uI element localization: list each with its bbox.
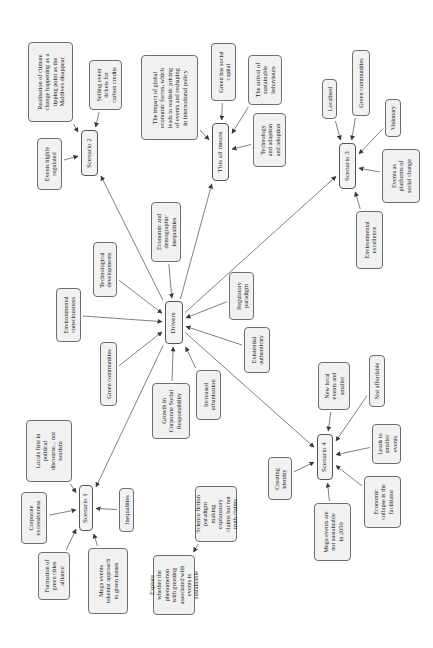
node-sustainable-behaviours: The arrival of sustainable behaviours [248, 55, 282, 105]
node-economic-demographic-inequalities: Economic and demographic inequalities [151, 202, 181, 262]
node-label: Scenario 4 [321, 442, 328, 472]
node-technological-developments: Technological developments [93, 242, 117, 297]
edge-highly_regulated-to-scenario2 [64, 156, 78, 160]
node-label: Growth in Corporate Social Responsibilit… [160, 390, 182, 433]
node-label: The impact of global economic forces, wh… [151, 67, 188, 127]
node-scenario-4: Scenario 4 [317, 434, 333, 480]
edge-new_local_events-to-scenario4 [328, 412, 330, 431]
edge-visionary-to-scenario3 [359, 129, 383, 154]
edge-sustainable_behaviours-to-this_all_means [232, 107, 248, 133]
edge-environmental_consciousness-to-drivers [83, 316, 162, 322]
node-green-communities-drivers: Green communities [100, 342, 117, 406]
node-visionary: Visionary [385, 99, 401, 137]
node-green-social-capital: Green has social capital [211, 43, 236, 101]
edge-creating_identity-to-scenario4 [294, 462, 314, 472]
node-scenario-1: Scenario 1 [79, 485, 93, 531]
node-label: Technological developments [98, 252, 113, 288]
edge-economic_demographic-to-drivers [169, 264, 172, 298]
node-mega-events-not-sustainable: Mega events are not sustainable in 2050 [314, 503, 351, 561]
node-label: Economic collapse is the facilitator [371, 484, 393, 520]
edge-green_social_capital-to-this_all_means [222, 103, 223, 120]
node-locals-first: Locals first in political discourse... n… [26, 420, 72, 482]
node-technology-adoption: Technology and adaption and adoption [253, 113, 286, 167]
node-leads-to-smaller-events: Leads to smaller events [372, 424, 401, 464]
node-label: Existential authenticity [250, 335, 265, 365]
node-label: Green communities [105, 349, 112, 399]
node-label: Scenario 2 [86, 138, 93, 168]
node-selling-tickets-carbon-credits: Selling event tickets for carbon credits [89, 60, 122, 110]
node-label: Visionary [389, 106, 396, 130]
node-realisation-climate-change: Realisation of climate change happening … [28, 42, 73, 122]
node-label: Green has social capital [216, 51, 231, 93]
node-label: Technology and adaption and adoption [258, 124, 280, 157]
edge-environmental_excellence-to-scenario3 [355, 192, 360, 209]
edge-regulatory_paradigm-to-drivers [186, 302, 227, 318]
node-label: Not affordable [373, 363, 380, 400]
node-label: Explore whether the phenomenon with gree… [148, 566, 200, 605]
node-label: Scenario 3 [344, 151, 351, 181]
node-mega-events-tokenist: Mega events tokenist approach to green i… [88, 548, 128, 614]
edge-global_forces-to-this_all_means [200, 130, 209, 140]
node-label: Selling event tickets for carbon credits [94, 67, 116, 103]
concept-map: Drivers Scenario 1 Scenario 2 Scenario 3… [0, 0, 433, 648]
edge-mega_not_sustainable-to-scenario4 [328, 483, 330, 501]
node-label: Localised [326, 87, 333, 111]
node-label: Creating identity [273, 468, 288, 490]
node-green-cities-alliance: Formation of green cities alliance [38, 552, 70, 600]
node-label: Locals first in political discourse... n… [34, 432, 64, 470]
node-creating-identity: Creating identity [268, 457, 292, 500]
node-label: Increased urbanisation [201, 379, 216, 410]
node-label: Mega events are not sustainable in 2050 [321, 511, 343, 552]
node-label: Events highly regulated [42, 147, 57, 182]
node-platforms-social-change: Events as platforms of social change [382, 149, 420, 203]
node-increased-urbanisation: Increased urbanisation [196, 370, 221, 420]
edge-science_fiction-to-explore_whether [194, 544, 199, 552]
node-label: Realisation of climate change happening … [36, 54, 66, 111]
edge-mega_tokenist-to-scenario1 [94, 534, 98, 546]
node-environmental-excellence: Environmental excellence [356, 211, 383, 269]
node-science-fiction-paradigm: Science fiction paradigm making explanat… [195, 486, 237, 542]
edge-localised-to-scenario3 [335, 121, 340, 140]
node-growth-csr: Growth in Corporate Social Responsibilit… [152, 383, 190, 439]
edge-technology_adoption-to-this_all_means [232, 145, 251, 150]
node-scenario-2: Scenario 2 [81, 130, 98, 176]
edge-economic_collapse-to-scenario4 [336, 466, 362, 486]
edge-green_communities_s3-to-scenario3 [352, 118, 356, 140]
node-new-local-events: New local events and smaller [318, 362, 350, 410]
node-existential-authenticity: Existential authenticity [244, 327, 270, 373]
node-explore-whether: Explore whether the phenomenon with gree… [153, 555, 195, 615]
node-environmental-consciousness: Environmental consciousness [56, 288, 81, 342]
node-drivers: Drivers [165, 301, 183, 344]
node-corporate-excessiveness: Corporate excessiveness [21, 492, 47, 544]
node-label: Science fiction paradigm making explanat… [194, 495, 238, 533]
edge-corporate_excessiveness-to-scenario1 [49, 510, 76, 515]
node-not-affordable: Not affordable [369, 355, 385, 407]
node-label: Leads to smaller events [375, 433, 397, 455]
edge-realisation-to-scenario2 [74, 124, 78, 132]
node-label: Events as platforms of social change [390, 159, 412, 193]
edge-increased_urbanisation-to-drivers [186, 347, 196, 368]
edge-platforms_social_change-to-scenario3 [359, 168, 380, 172]
node-label: Scenario 1 [82, 493, 89, 523]
edge-inequalities-to-scenario1 [96, 508, 117, 509]
edge-growth_csr-to-drivers [172, 347, 173, 381]
node-scenario-3: Scenario 3 [339, 143, 356, 189]
node-economic-collapse: Economic collapse is the facilitator [364, 476, 401, 528]
edge-green_cities_alliance-to-scenario1 [66, 529, 76, 550]
node-label: The arrival of sustainable behaviours [254, 63, 276, 98]
node-green-communities-s3: Green communities [352, 50, 370, 116]
edge-drivers-to-this_all_means [180, 184, 211, 299]
node-inequalities: Inequalities [119, 488, 134, 532]
node-label: Green communities [357, 58, 364, 108]
node-label: Formation of green cities alliance [43, 559, 65, 592]
node-label: This all means [217, 132, 224, 173]
edge-leads_smaller-to-scenario4 [336, 447, 370, 454]
edge-drivers-to-scenario3 [185, 176, 336, 312]
node-events-highly-regulated: Events highly regulated [37, 138, 62, 190]
node-label: Environmental excellence [362, 221, 377, 258]
node-label: Corporate excessiveness [27, 501, 42, 536]
node-label: Regulatory paradigm [234, 282, 249, 310]
node-label: New local events and smaller [323, 373, 345, 400]
node-label: Mega events tokenist approach to green i… [97, 559, 119, 604]
node-regulatory-paradigm: Regulatory paradigm [229, 272, 254, 320]
